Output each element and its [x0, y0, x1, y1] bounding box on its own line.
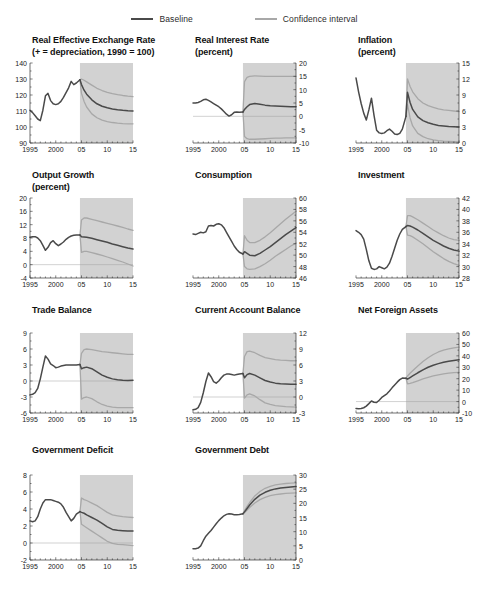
- panel-real-effective-exchange-rate: Real Effective Exchange Rate(+ = depreci…: [0, 30, 163, 165]
- y-tick-label: 0: [23, 378, 27, 385]
- x-tick-label: 05: [78, 416, 86, 424]
- panel-real-interest-rate: Real Interest Rate(percent)-10-505101520…: [163, 30, 326, 165]
- panel-title: Net Foreign Assets: [358, 305, 485, 317]
- panel-title-main: Investment: [358, 170, 405, 180]
- y-tick-label: 56: [299, 217, 307, 224]
- y-tick-label: 20: [19, 195, 27, 202]
- x-tick-label: 05: [404, 281, 412, 289]
- y-tick-label: 2: [23, 523, 27, 530]
- x-tick-label: 05: [78, 146, 86, 154]
- x-tick-label: 05: [241, 563, 249, 571]
- x-tick-label: 15: [292, 563, 300, 571]
- panel-title-main: Government Deficit: [32, 445, 113, 455]
- y-tick-label: 100: [15, 124, 27, 131]
- x-tick-label: 2000: [374, 281, 390, 289]
- panel-government-debt: Government Debt0510152025301995200005101…: [163, 435, 326, 588]
- x-tick-label: 1995: [22, 281, 38, 289]
- y-tick-label: 15: [299, 73, 307, 80]
- y-tick-label: -5: [299, 126, 305, 133]
- panel-title-main: Output Growth: [32, 170, 94, 180]
- legend-item-confidence-interval: Confidence interval: [255, 14, 358, 24]
- y-tick-label: 10: [462, 387, 470, 394]
- panel-title-main: Inflation: [358, 35, 392, 45]
- panel-title: Current Account Balance: [195, 305, 322, 317]
- x-tick-label: 15: [129, 563, 137, 571]
- panel-title-main: Current Account Balance: [195, 305, 300, 315]
- panel-title: Government Deficit: [32, 445, 159, 457]
- x-tick-label: 2000: [211, 281, 227, 289]
- panel-row: Output Growth(percent)-40481216201995200…: [0, 165, 489, 300]
- panel-title: Real Interest Rate(percent): [195, 35, 322, 58]
- x-tick-label: 2000: [211, 563, 227, 571]
- panel-title-main: Net Foreign Assets: [358, 305, 438, 315]
- x-tick-label: 2000: [48, 146, 64, 154]
- y-tick-label: 10: [299, 528, 307, 535]
- x-axis-labels: 19952000051015: [356, 63, 459, 143]
- panel-output-growth: Output Growth(percent)-40481216201995200…: [0, 165, 163, 300]
- x-axis-labels: 19952000051015: [193, 198, 296, 278]
- x-tick-label: 10: [103, 146, 111, 154]
- y-tick-label: 40: [462, 206, 470, 213]
- x-tick-label: 05: [241, 416, 249, 424]
- x-tick-label: 10: [103, 416, 111, 424]
- x-axis-labels: 19952000051015: [30, 63, 133, 143]
- y-tick-label: 10: [299, 86, 307, 93]
- x-tick-label: 10: [266, 416, 274, 424]
- y-tick-label: 20: [299, 60, 307, 67]
- x-tick-label: 10: [103, 281, 111, 289]
- x-tick-label: 15: [455, 416, 463, 424]
- y-tick-label: 3: [299, 378, 303, 385]
- x-axis-labels: 19952000051015: [193, 475, 296, 560]
- y-tick-label: 32: [462, 252, 470, 259]
- y-tick-label: 130: [15, 76, 27, 83]
- x-tick-label: 2000: [48, 281, 64, 289]
- panel-title-main: Trade Balance: [32, 305, 92, 315]
- y-tick-label: 16: [19, 208, 27, 215]
- panel-subtitle: (percent): [358, 47, 485, 59]
- x-tick-label: 15: [292, 281, 300, 289]
- legend-item-baseline: Baseline: [131, 14, 192, 24]
- y-tick-label: 4: [23, 506, 27, 513]
- y-tick-label: 60: [299, 195, 307, 202]
- y-tick-label: 6: [462, 108, 466, 115]
- y-tick-label: 20: [299, 500, 307, 507]
- y-tick-label: 9: [462, 92, 466, 99]
- panel-subtitle: (percent): [195, 47, 322, 59]
- x-tick-label: 05: [78, 563, 86, 571]
- x-tick-label: 2000: [211, 146, 227, 154]
- y-tick-label: 46: [299, 275, 307, 282]
- y-tick-label: -3: [21, 394, 27, 401]
- legend-line-confidence-interval-icon: [255, 18, 277, 20]
- panel-title: Government Debt: [195, 445, 322, 457]
- x-tick-label: 15: [292, 146, 300, 154]
- legend-line-baseline-icon: [131, 18, 153, 20]
- y-tick-label: 0: [462, 398, 466, 405]
- x-tick-label: 10: [429, 416, 437, 424]
- x-tick-label: 05: [241, 281, 249, 289]
- y-tick-label: 12: [299, 330, 307, 337]
- legend-label-confidence-interval: Confidence interval: [283, 14, 358, 24]
- panel-grid: Real Effective Exchange Rate(+ = depreci…: [0, 30, 489, 588]
- panel-title-main: Real Effective Exchange Rate: [32, 35, 155, 45]
- y-tick-label: 6: [23, 489, 27, 496]
- x-tick-label: 1995: [185, 146, 201, 154]
- y-tick-label: 5: [299, 100, 303, 107]
- panel-row: Trade Balance-6-3036919952000051015Curre…: [0, 300, 489, 435]
- x-tick-label: 15: [455, 281, 463, 289]
- y-tick-label: 40: [462, 352, 470, 359]
- x-axis-labels: 19952000051015: [356, 198, 459, 278]
- x-tick-label: 1995: [348, 416, 364, 424]
- panel-title: Consumption: [195, 170, 322, 182]
- panel-consumption: Consumption46485052545658601995200005101…: [163, 165, 326, 300]
- x-tick-label: 10: [429, 281, 437, 289]
- panel-inflation: Inflation(percent)0369121519952000051015: [326, 30, 489, 165]
- y-tick-label: 15: [299, 514, 307, 521]
- panel-title: Trade Balance: [32, 305, 159, 317]
- y-tick-label: 8: [23, 472, 27, 479]
- y-tick-label: 48: [299, 263, 307, 270]
- y-tick-label: 0: [23, 540, 27, 547]
- x-tick-label: 2000: [48, 416, 64, 424]
- x-tick-label: 1995: [22, 146, 38, 154]
- y-tick-label: 54: [299, 229, 307, 236]
- x-tick-label: 1995: [185, 563, 201, 571]
